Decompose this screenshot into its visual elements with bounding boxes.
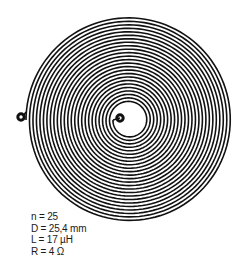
spec-resistance: R = 4 Ω (31, 246, 86, 258)
spec-inductance: L = 17 µH (31, 234, 86, 246)
spec-turns: n = 25 (31, 211, 86, 223)
spec-diameter: D = 25,4 mm (31, 223, 86, 235)
coil-specifications: n = 25 D = 25,4 mm L = 17 µH R = 4 Ω (31, 211, 86, 257)
outer-terminal-pad (18, 114, 24, 120)
spiral-winding (26, 18, 230, 221)
